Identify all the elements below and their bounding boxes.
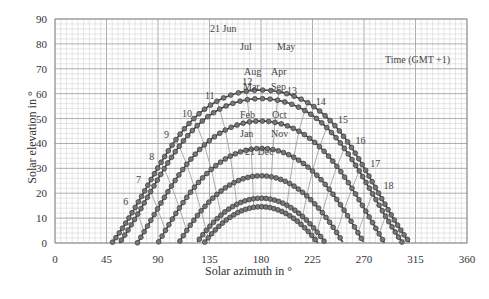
data-point (296, 158, 301, 163)
data-point (178, 132, 183, 137)
data-point (338, 169, 343, 174)
data-point (180, 167, 185, 172)
month-label: 21 Jun (210, 23, 236, 34)
x-tick-label: 360 (459, 253, 476, 265)
data-point (342, 146, 347, 151)
data-point (314, 173, 319, 178)
month-label: Feb (240, 109, 255, 120)
sun-path-curves (110, 88, 410, 245)
data-point (309, 233, 314, 238)
data-point (350, 186, 355, 191)
data-point (145, 183, 150, 188)
data-point (379, 196, 384, 201)
month-label: Mar (243, 81, 260, 92)
data-point (184, 195, 189, 200)
data-point (291, 126, 296, 131)
data-point (308, 112, 313, 117)
month-label: Oct (272, 109, 287, 120)
data-point (396, 235, 401, 240)
data-point (205, 114, 210, 119)
data-point (317, 144, 322, 149)
data-point (367, 174, 372, 179)
data-point (195, 123, 200, 128)
month-label: 21 Dec (245, 146, 274, 157)
data-point (323, 113, 328, 118)
data-point (338, 235, 343, 240)
data-point (247, 120, 252, 125)
data-point (200, 175, 205, 180)
data-point (313, 237, 318, 242)
data-point (373, 226, 378, 231)
data-point (158, 172, 163, 177)
hour-label-17: 17 (370, 158, 380, 169)
x-tick-label: 45 (101, 253, 113, 265)
data-point (203, 204, 208, 209)
data-point (173, 149, 178, 154)
month-label: Sep (271, 81, 286, 92)
data-point (211, 220, 216, 225)
hour-label-8: 8 (149, 151, 154, 162)
data-point (370, 179, 375, 184)
data-point (315, 230, 320, 235)
data-point (149, 177, 154, 182)
data-point (224, 104, 229, 109)
data-point (405, 237, 410, 242)
data-point (138, 235, 143, 240)
data-point (142, 229, 147, 234)
data-point (142, 201, 147, 206)
data-point (208, 103, 213, 108)
data-point (169, 155, 174, 160)
data-point (132, 217, 137, 222)
month-label: Aug (244, 66, 261, 77)
data-point (282, 100, 287, 105)
data-point (260, 119, 265, 124)
data-point (373, 185, 378, 190)
data-point (223, 157, 228, 162)
data-point (322, 149, 327, 154)
data-point (332, 123, 337, 128)
data-point (228, 93, 233, 98)
data-point (174, 137, 179, 142)
data-point (345, 213, 350, 218)
data-point (345, 139, 350, 144)
data-point (218, 160, 223, 165)
data-point (316, 206, 321, 211)
data-point (209, 167, 214, 172)
data-point (260, 88, 265, 93)
data-point (241, 176, 246, 181)
data-point (232, 180, 237, 185)
data-point (331, 225, 336, 230)
data-point (255, 174, 260, 179)
data-point (212, 134, 217, 139)
data-point (389, 212, 394, 217)
data-point (145, 224, 150, 229)
data-point (231, 101, 236, 106)
data-point (281, 150, 286, 155)
data-point (196, 180, 201, 185)
data-point (380, 208, 385, 213)
data-point (297, 129, 302, 134)
data-point (275, 98, 280, 103)
data-point (357, 197, 362, 202)
data-point (170, 143, 175, 148)
data-point (327, 220, 332, 225)
data-point (202, 240, 207, 245)
data-point (382, 202, 387, 207)
data-point (296, 105, 301, 110)
data-point (363, 209, 368, 214)
data-point (322, 239, 327, 244)
data-point (184, 228, 189, 233)
data-point (155, 178, 160, 183)
data-point (188, 190, 193, 195)
data-point (195, 213, 200, 218)
data-point (346, 180, 351, 185)
data-point (370, 220, 375, 225)
data-point (211, 110, 216, 115)
data-point (380, 237, 385, 242)
data-point (302, 108, 307, 113)
data-point (238, 149, 243, 154)
data-point (308, 221, 313, 226)
data-point (163, 228, 168, 233)
hour-label-11: 11 (205, 90, 215, 101)
data-point (227, 183, 232, 188)
